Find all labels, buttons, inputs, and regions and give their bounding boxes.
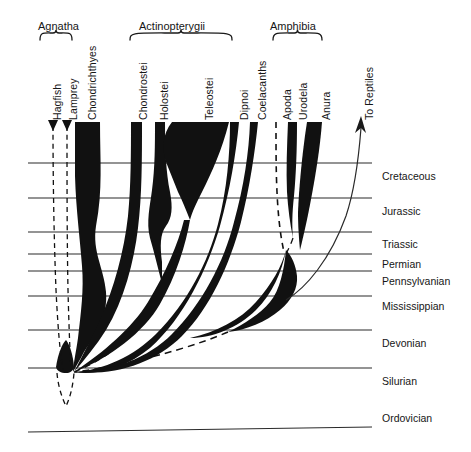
taxon-label-dipnoi: Dipnoi [238,90,250,120]
taxon-label-coelacanths: Coelacanths [256,61,268,120]
period-label-devonian: Devonian [382,337,426,349]
silhouette-teleostei [164,122,229,220]
period-label-pennsylvanian: Pennsylvanian [382,275,450,287]
to-reptiles-arrow-group [286,116,366,300]
group-label-amphibia: Amphibia [270,20,316,32]
taxon-label-chondrostei: Chondrostei [137,62,149,120]
vertebrate-phylogeny-figure: HagfishLampreyChondrichthyesChondrosteiH… [0,0,471,452]
taxon-label-to-reptiles: To Reptiles [363,67,375,120]
period-label-permian: Permian [382,258,421,270]
lineage-agnathan-root [57,373,74,406]
period-label-mississippian: Mississippian [382,300,444,312]
agnathan-arrowheads-group [48,120,72,131]
period-label-silurian: Silurian [382,375,417,387]
period-label-cretaceous: Cretaceous [382,170,436,182]
taxon-label-holostei: Holostei [158,81,170,120]
taxon-label-lamprey: Lamprey [67,78,79,120]
taxon-label-teleostei: Teleostei [203,78,215,120]
lineage-to-reptiles [286,128,361,300]
lineage-dash-urodela [287,238,293,252]
period-label-jurassic: Jurassic [382,205,421,217]
silhouette-anura [298,122,322,250]
period-boundary-line [28,427,372,432]
period-label-ordovician: Ordovician [382,412,432,424]
arrowhead-hagfish [48,120,58,131]
taxon-label-apoda: Apoda [281,89,293,120]
taxon-label-anura: Anura [320,91,332,120]
period-label-triassic: Triassic [382,238,418,250]
silhouette-ostracoderms [56,340,74,373]
arrowhead-lamprey [62,120,72,131]
group-label-agnatha: Agnatha [38,20,79,32]
silhouette-urodela [287,122,297,238]
taxon-silhouettes-group [56,122,322,373]
taxon-label-chondrichthyes: Chondrichthyes [86,46,98,120]
group-label-actinopterygii: Actinopterygii [139,20,205,32]
taxon-label-hagfish: Hagfish [51,84,63,120]
taxon-label-urodela: Urodela [297,83,309,120]
